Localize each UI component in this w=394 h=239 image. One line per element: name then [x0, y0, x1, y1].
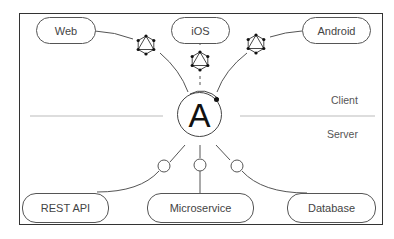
server-node-database: Database [287, 193, 376, 223]
client-label-ios: iOS [191, 25, 209, 37]
client-node-web: Web [36, 17, 96, 44]
server-label-rest-api: REST API [41, 202, 90, 214]
server-label-database: Database [308, 202, 355, 214]
database-connector-node [231, 160, 243, 172]
server-node-rest-api: REST API [22, 193, 109, 223]
microservice-connector-node [194, 159, 206, 171]
server-node-microservice: Microservice [147, 193, 254, 223]
hub-letter: A [188, 99, 210, 132]
graphql-icon-ios [191, 50, 210, 71]
zone-label-server: Server [327, 128, 358, 140]
client-label-android: Android [318, 25, 356, 37]
client-node-ios: iOS [171, 17, 230, 44]
hub-dot [214, 97, 219, 102]
graphql-icon-android [247, 33, 266, 54]
client-label-web: Web [55, 25, 77, 37]
graphql-icon-web [137, 34, 156, 55]
server-label-microservice: Microservice [170, 202, 232, 214]
client-node-android: Android [302, 17, 371, 44]
zone-label-client: Client [331, 94, 358, 106]
rest-connector-node [158, 160, 170, 172]
